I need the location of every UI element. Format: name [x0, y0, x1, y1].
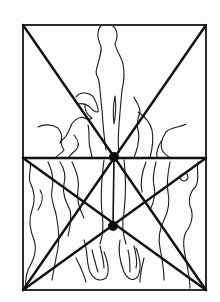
- central-figure-arm: [113, 96, 115, 124]
- lower-intersection-node: [108, 221, 118, 231]
- right-figure-upper: [134, 97, 186, 158]
- diagram-canvas: [0, 0, 220, 302]
- left-figure-head: [76, 93, 98, 112]
- lower-right-figure: [141, 162, 198, 288]
- central-figure-outline: [96, 26, 124, 152]
- composition-diagram: [0, 0, 220, 302]
- vertical-center-line: [113, 157, 114, 226]
- lower-center-hands: [76, 240, 144, 282]
- upper-intersection-node: [109, 152, 119, 162]
